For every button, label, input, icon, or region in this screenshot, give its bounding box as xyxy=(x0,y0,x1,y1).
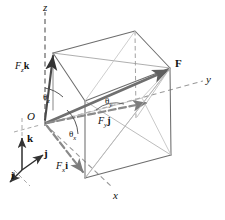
top-face-diagonal-a xyxy=(53,53,170,68)
angle-label-theta-z: θz xyxy=(43,93,50,104)
component-label-Fz: Fzk xyxy=(15,61,29,74)
component-label-Fx: Fxi xyxy=(56,161,68,174)
unit-vector-triad xyxy=(10,138,43,182)
component-label-Fy: Fyj xyxy=(98,116,111,129)
box-edge-right-vertical xyxy=(170,68,171,155)
unit-vector-label-i: i xyxy=(11,170,14,181)
axis-label-x: x xyxy=(113,190,118,201)
axis-y-negative-stub xyxy=(14,125,40,132)
unit-vector-label-k: k xyxy=(27,133,33,144)
axis-label-y: y xyxy=(206,74,211,85)
component-vector-Fy xyxy=(47,103,146,123)
unit-vector-j-arrow xyxy=(22,155,43,170)
unit-vector-label-j: j xyxy=(44,148,48,159)
rear-to-front-bottom-right xyxy=(142,98,171,155)
axis-x-negative-stub xyxy=(14,170,30,186)
box-edge-bottom-front xyxy=(85,155,171,178)
top-face-diagonal-b xyxy=(85,31,135,101)
angle-label-theta-y: θy xyxy=(105,97,112,108)
origin-label: O xyxy=(27,111,35,122)
force-label-F: F xyxy=(175,58,182,69)
force-vector-diagram: z y x O F Fzk Fyj Fxi θz θy θx k j i xyxy=(0,0,225,220)
angle-label-theta-x: θx xyxy=(69,130,76,141)
axis-label-z: z xyxy=(43,2,47,13)
